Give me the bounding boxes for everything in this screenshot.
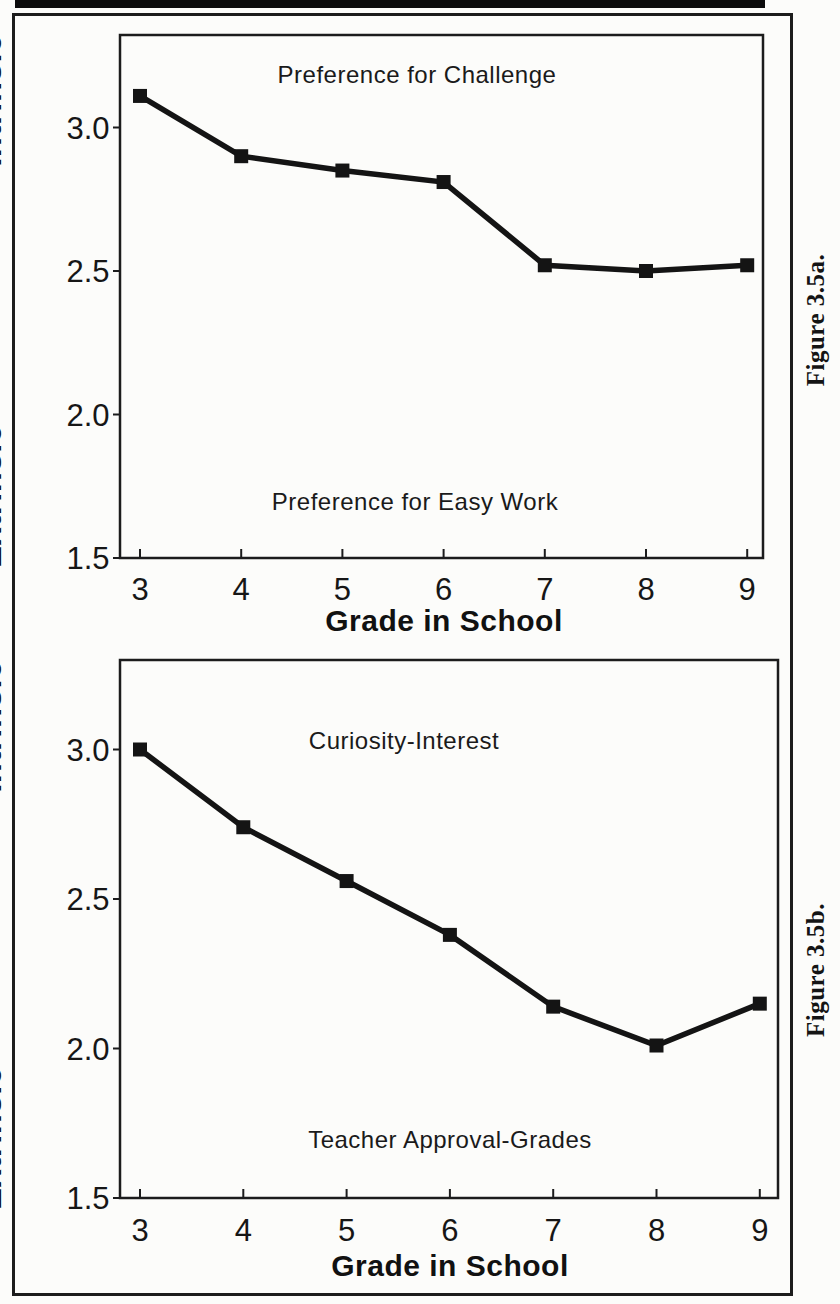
data-line [140, 750, 760, 1046]
y-tick-label: 3.0 [66, 112, 109, 143]
x-tick-label: 4 [235, 1215, 252, 1246]
x-tick-label: 6 [441, 1215, 458, 1246]
x-tick-label: 5 [334, 574, 351, 605]
y-axis-label-chart-a: Extrinsic Intrinsic [0, 34, 10, 568]
y-tick-label: 2.0 [66, 399, 109, 430]
y-axis-label-chart-b: Extrinsic Intrinsic [0, 660, 10, 1210]
y-axis-label-high: Intrinsic [0, 660, 9, 793]
data-point-marker [133, 89, 147, 103]
data-point-marker [639, 264, 653, 278]
y-axis-label-high: Intrinsic [0, 34, 9, 167]
x-tick-label: 6 [435, 574, 452, 605]
figure-caption-a: Figure 3.5a. [802, 254, 830, 387]
y-tick-label: 1.5 [66, 543, 109, 574]
x-tick-label: 9 [751, 1215, 768, 1246]
plot-box [120, 35, 763, 558]
x-tick-label: 4 [233, 574, 250, 605]
data-point-marker [753, 997, 767, 1011]
data-point-marker [437, 175, 451, 189]
x-tick-label: 7 [536, 574, 553, 605]
y-tick-label: 3.0 [66, 734, 109, 765]
annotation-preference-for-challenge: Preference for Challenge [278, 61, 557, 89]
x-tick-label: 7 [545, 1215, 562, 1246]
y-axis-label-low: Extrinsic [0, 1066, 9, 1210]
charts-canvas [0, 0, 840, 1304]
y-tick-label: 1.5 [66, 1183, 109, 1214]
annotation-preference-for-easy-work: Preference for Easy Work [272, 488, 558, 516]
figure-caption-b: Figure 3.5b. [802, 903, 830, 1037]
x-tick-label: 8 [648, 1215, 665, 1246]
x-tick-label: 9 [739, 574, 756, 605]
y-tick-label: 2.5 [66, 256, 109, 287]
y-tick-label: 2.5 [66, 884, 109, 915]
data-point-marker [236, 820, 250, 834]
data-point-marker [650, 1039, 664, 1053]
data-point-marker [340, 874, 354, 888]
x-tick-label: 3 [131, 574, 148, 605]
x-tick-label: 8 [637, 574, 654, 605]
data-point-marker [234, 149, 248, 163]
x-tick-label: 3 [131, 1215, 148, 1246]
x-tick-label: 5 [338, 1215, 355, 1246]
data-point-marker [443, 928, 457, 942]
data-point-marker [133, 743, 147, 757]
data-point-marker [740, 258, 754, 272]
scanned-figure-page: Extrinsic Intrinsic Preference for Chall… [0, 0, 840, 1304]
data-point-marker [335, 164, 349, 178]
data-point-marker [538, 258, 552, 272]
annotation-teacher-approval-grades: Teacher Approval-Grades [308, 1126, 592, 1154]
y-tick-label: 2.0 [66, 1033, 109, 1064]
annotation-curiosity-interest: Curiosity-Interest [309, 727, 499, 755]
data-point-marker [546, 1000, 560, 1014]
y-axis-label-low: Extrinsic [0, 424, 9, 568]
x-axis-title-chart-b: Grade in School [331, 1249, 569, 1283]
x-axis-title-chart-a: Grade in School [325, 604, 563, 638]
